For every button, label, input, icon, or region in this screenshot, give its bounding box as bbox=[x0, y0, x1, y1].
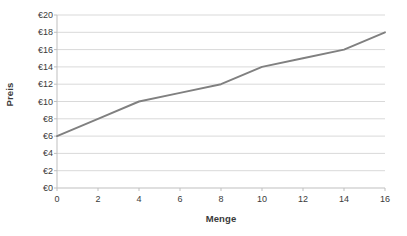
gridlines bbox=[57, 15, 385, 171]
plot-area bbox=[0, 0, 407, 236]
x-axis-title-label: Menge bbox=[206, 213, 237, 224]
line-chart: Preis €0€2€4€6€8€10€12€14€16€18€20 02468… bbox=[0, 0, 407, 236]
x-axis-title: Menge bbox=[57, 213, 385, 224]
